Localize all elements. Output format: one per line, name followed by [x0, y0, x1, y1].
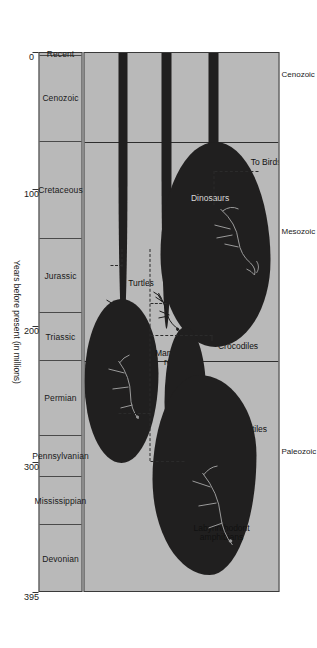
mammallike-reptile-sketch	[92, 353, 148, 431]
axis-tick-label-395: 395	[23, 592, 38, 602]
axis-tick-label-200: 200	[23, 326, 38, 336]
axis-title: Years before present (in millions)	[11, 52, 21, 592]
to-birds-branch-vertical	[214, 171, 258, 172]
era-boundary-cenozoic-mesozoic	[84, 142, 278, 143]
axis-tick-label-0: 0	[28, 52, 33, 62]
period-label-mississippian: Mississippian	[34, 496, 86, 506]
period-triassic[interactable]: Triassic	[39, 313, 81, 361]
ancestry-line-to-lizards	[150, 303, 166, 304]
plot-area: Turtles Lizards and snakes	[83, 52, 279, 592]
period-strip: Recent Cenozoic Cretaceous Jurassic Tria…	[38, 52, 82, 592]
figure-stage: Cenozoic Mesozoic Paleozoic Turtles Liza…	[0, 0, 297, 648]
era-label-mesozoic: Mesozoic	[281, 227, 297, 236]
ancestry-line-turtles-h	[121, 249, 122, 267]
group-label-to-birds: To Birds	[233, 158, 279, 167]
era-label-row: Cenozoic Mesozoic Paleozoic	[280, 52, 297, 592]
dinosaur-sketch	[198, 203, 260, 293]
era-label-paleozoic: Paleozoic	[281, 447, 297, 456]
spindle-diagram: Cenozoic Mesozoic Paleozoic Turtles Liza…	[0, 0, 297, 648]
axis-tick-label-100: 100	[23, 189, 38, 199]
period-label-jurassic: Jurassic	[44, 270, 76, 280]
ancestry-line-to-crocodiles	[150, 335, 212, 336]
period-permian[interactable]: Permian	[39, 361, 81, 436]
period-cretaceous[interactable]: Cretaceous	[39, 142, 81, 239]
ancestry-line-base	[149, 249, 150, 461]
to-birds-branch-horizontal	[213, 171, 214, 205]
period-mississippian[interactable]: Mississippian	[39, 477, 81, 525]
group-label-dinosaurs: Dinosaurs	[175, 194, 245, 203]
period-label-triassic: Triassic	[45, 331, 75, 341]
ancestry-line-to-mammallike	[118, 413, 150, 414]
ancestry-line-to-turtles	[110, 265, 122, 266]
era-label-cenozoic: Cenozoic	[281, 70, 297, 79]
ancestry-line-to-crocodiles-h	[211, 335, 212, 341]
period-pennsylvanian[interactable]: Pennsylvanian	[39, 436, 81, 477]
axis-tick-label-300: 300	[23, 462, 38, 472]
period-label-permian: Permian	[44, 393, 76, 403]
period-cenozoic[interactable]: Cenozoic	[39, 56, 81, 142]
period-label-pennsylvanian: Pennsylvanian	[32, 451, 89, 461]
labyrinthodont-sketch	[170, 463, 244, 555]
period-label-cenozoic: Cenozoic	[42, 94, 78, 104]
period-label-devonian: Devonian	[42, 554, 79, 564]
period-label-cretaceous: Cretaceous	[38, 185, 82, 195]
ancestry-line-to-archaic	[150, 461, 184, 462]
period-devonian[interactable]: Devonian	[39, 525, 81, 593]
period-jurassic[interactable]: Jurassic	[39, 239, 81, 313]
